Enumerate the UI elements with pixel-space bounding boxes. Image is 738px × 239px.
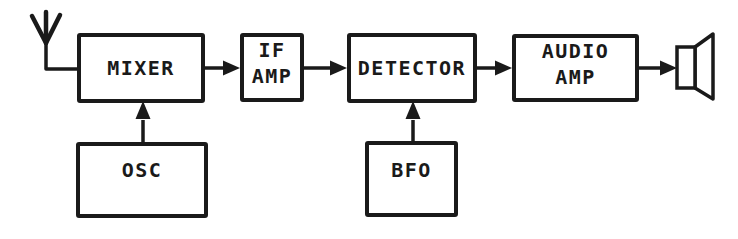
antenna-icon [32, 12, 77, 69]
block-detector-label: DETECTOR [358, 55, 466, 81]
block-audio-amp-label-line1: AUDIO [542, 38, 610, 64]
arrow-ifamp-to-detector [303, 61, 347, 76]
block-bfo-label: BFO [391, 157, 432, 183]
block-mixer-label: MIXER [107, 55, 175, 81]
arrow-mixer-to-ifamp [204, 61, 240, 76]
antenna-feed-line [46, 43, 77, 69]
speaker-icon [677, 34, 713, 99]
arrow-bfo-to-detector [406, 101, 421, 141]
block-audio-amp-label-line2: AMP [555, 64, 596, 90]
block-osc: OSC [76, 142, 208, 218]
block-mixer: MIXER [77, 33, 205, 103]
block-if-amp-label-line2: AMP [252, 63, 293, 89]
block-if-amp-label-line1: IF [258, 37, 285, 63]
block-if-amp: IF AMP [240, 33, 304, 102]
block-osc-label: OSC [122, 157, 163, 183]
arrow-audioamp-to-speaker [638, 61, 677, 76]
block-detector: DETECTOR [347, 33, 477, 103]
block-diagram-canvas: MIXER IF AMP DETECTOR AUDIO AMP OSC BFO [0, 0, 738, 239]
block-bfo: BFO [365, 141, 458, 217]
arrow-detector-to-audioamp [476, 61, 512, 76]
arrow-osc-to-mixer [136, 101, 151, 142]
block-audio-amp: AUDIO AMP [512, 34, 639, 102]
